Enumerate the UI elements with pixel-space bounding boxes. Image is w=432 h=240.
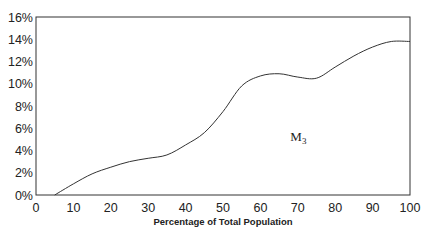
y-tick-label: 4% [15,144,33,158]
y-tick-label: 12% [8,55,33,69]
y-tick-label: 0% [15,189,33,203]
chart: 0%2%4%6%8%10%12%14%16% 01020304050607080… [0,0,432,240]
annotation-main: M [290,129,302,144]
y-tick-label: 6% [15,122,33,136]
y-tick-label: 8% [15,100,33,114]
x-tick-label: 70 [291,201,305,215]
y-tick-label: 14% [8,33,33,47]
x-axis: 0102030405060708090100 [33,201,421,215]
x-tick-label: 50 [216,201,230,215]
x-axis-label: Percentage of Total Population [153,216,292,227]
annotation-subscript: 3 [302,136,307,146]
x-tick-label: 20 [104,201,118,215]
x-tick-label: 60 [253,201,267,215]
y-axis: 0%2%4%6%8%10%12%14%16% [8,11,33,203]
x-tick-label: 40 [179,201,193,215]
y-tick-label: 2% [15,166,33,180]
x-tick-label: 90 [366,201,380,215]
y-tick-label: 10% [8,77,33,91]
y-tick-label: 16% [8,11,33,25]
x-tick-label: 30 [141,201,155,215]
x-tick-label: 80 [328,201,342,215]
plot-area [36,17,410,195]
plot-frame [36,17,410,195]
x-tick-label: 0 [33,201,40,215]
x-tick-label: 10 [66,201,80,215]
x-tick-label: 100 [400,201,421,215]
